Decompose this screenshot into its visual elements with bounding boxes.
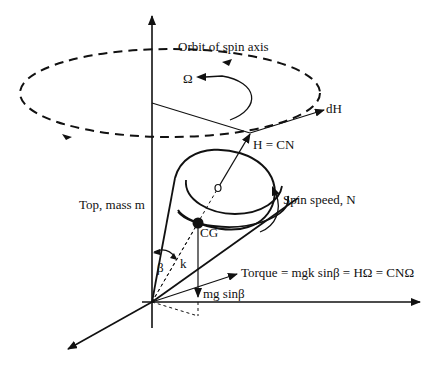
diagram-graphics [0,0,446,369]
H-label: H = CN [253,138,294,151]
beta-angle [153,249,177,260]
k-label: k [180,257,187,270]
gyroscope-diagram: Orbit of spin axis Ω dH H = CN Spin spee… [0,0,446,369]
orbit-arrow-top-icon [222,59,232,66]
top-mass-label: Top, mass m [79,198,145,211]
dH-vector [250,110,324,133]
H-vector [218,134,250,188]
spin-axis-marker [215,185,221,192]
dH-label: dH [326,102,342,115]
orbit-label: Orbit of spin axis [178,40,269,53]
ground-projection-1 [152,302,198,316]
omega-arrowhead-icon [196,73,206,81]
cg-label: CG [200,226,218,239]
depth-axis [68,302,152,349]
torque-label: Torque = mgk sinβ = HΩ = CNΩ [241,266,414,279]
weight-label: mg sinβ [203,287,245,300]
orbit-arrow-bottom-icon [62,134,72,140]
spin-speed-label: Spin speed, N [283,193,356,206]
omega-label: Ω [183,72,193,85]
precession-arrow [196,73,252,120]
beta-label: β [157,261,164,274]
orbit-of-spin-axis [20,49,320,140]
beta-arrow-right-icon [170,253,177,260]
